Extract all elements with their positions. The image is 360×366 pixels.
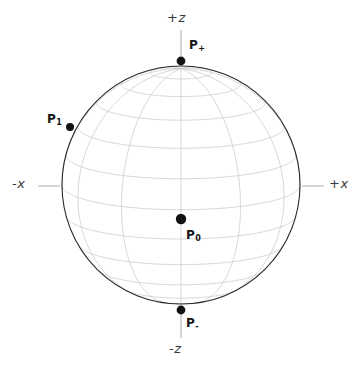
grid-line [181,69,284,298]
axis-label-x-negative: -x [12,176,25,191]
point-marker-p0 [176,214,186,224]
point-label-p-zero: P0 [186,228,200,242]
grid-line [122,69,182,304]
sphere-diagram [0,0,360,366]
axis-label-x-positive: +x [329,176,349,191]
point-marker-p1 [66,123,74,131]
point-marker-pminus [177,306,186,315]
marked-points [66,57,186,315]
point-label-p-zero-main: P [186,228,195,242]
sphere-wireframe-grid [62,66,300,304]
grid-line [181,69,300,191]
point-label-p-one-sub: 1 [56,118,62,127]
point-label-p-plus-main: P [189,38,198,52]
axis-label-z-negative: -z [169,341,182,356]
point-label-p-plus-sub: + [198,44,205,53]
point-marker-pplus [177,57,186,66]
grid-line [181,69,241,304]
point-label-p-minus: P- [186,316,198,330]
grid-line [78,69,181,298]
point-label-p-plus: P+ [189,38,205,52]
point-label-p-one-main: P [47,112,56,126]
axis-label-z-positive: +z [167,10,186,25]
point-label-p-one: P1 [47,112,61,126]
point-label-p-minus-main: P [186,316,195,330]
point-label-p-zero-sub: 0 [195,234,201,243]
point-label-p-minus-sub: - [195,322,198,331]
grid-line [62,69,181,191]
